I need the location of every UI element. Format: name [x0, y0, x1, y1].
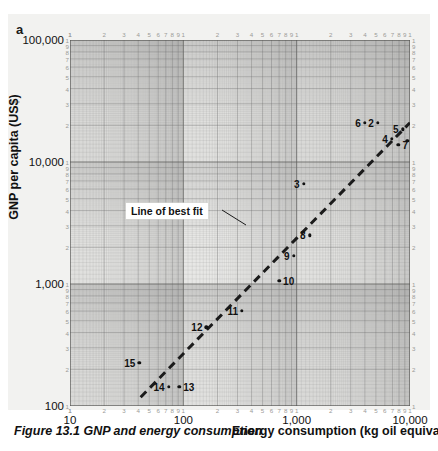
data-point-label-14: 14 [153, 382, 166, 393]
minor-label-bottom-80: 8 [171, 407, 174, 414]
minor-label-right-50000: 5 [412, 73, 421, 80]
minor-label-right-800: 8 [412, 292, 421, 299]
minor-label-left-10000: 1 [60, 159, 69, 166]
minor-label-top-300: 3 [236, 31, 239, 38]
minor-label-left-70000: 7 [60, 55, 69, 62]
minor-label-right-5000: 5 [412, 195, 421, 202]
minor-label-bottom-300: 3 [236, 407, 239, 414]
minor-label-bottom-8000: 8 [397, 407, 400, 414]
data-point-label-11: 11 [228, 306, 241, 317]
minor-label-bottom-200: 2 [216, 407, 219, 414]
minor-label-top-8000: 8 [397, 31, 400, 38]
minor-label-bottom-30: 3 [122, 407, 125, 414]
minor-label-top-500: 5 [261, 31, 264, 38]
minor-label-right-1000: 1 [412, 281, 421, 288]
data-point-label-12: 12 [191, 322, 204, 333]
x-axis-title: Energy consumption (kg oil equivalent) [232, 424, 436, 438]
minor-label-left-80000: 8 [60, 48, 69, 55]
minor-label-right-6000: 6 [412, 186, 421, 193]
minor-label-left-20000: 2 [60, 122, 69, 129]
minor-label-bottom-20: 2 [102, 407, 105, 414]
minor-label-left-4000: 4 [60, 207, 69, 214]
minor-label-right-40000: 4 [412, 85, 421, 92]
y-axis-label-100: 100 [0, 400, 64, 412]
minor-label-top-6000: 6 [383, 31, 386, 38]
minor-label-left-100000: 1 [60, 37, 69, 44]
minor-label-left-100: 1 [60, 403, 69, 410]
minor-label-right-8000: 8 [412, 170, 421, 177]
minor-label-bottom-4000: 4 [363, 407, 366, 414]
minor-label-right-100000: 1 [412, 37, 421, 44]
minor-label-bottom-600: 6 [270, 407, 273, 414]
data-point-label-5: 5 [393, 124, 401, 135]
minor-label-bottom-500: 5 [261, 407, 264, 414]
line-of-best-fit-annotation: Line of best fit [126, 203, 208, 219]
minor-label-top-1000: 1 [295, 31, 298, 38]
line-of-best-fit [70, 40, 410, 406]
minor-label-bottom-2000: 2 [329, 407, 332, 414]
minor-label-top-90: 9 [176, 31, 179, 38]
minor-label-top-80: 8 [171, 31, 174, 38]
minor-label-top-900: 9 [290, 31, 293, 38]
minor-label-bottom-3000: 3 [349, 407, 352, 414]
minor-label-left-8000: 8 [60, 170, 69, 177]
data-point-label-4: 4 [382, 133, 390, 144]
minor-label-bottom-40: 4 [136, 407, 139, 414]
minor-label-top-30: 3 [122, 31, 125, 38]
data-point-label-6: 6 [355, 117, 363, 128]
minor-label-right-3000: 3 [412, 222, 421, 229]
minor-label-right-30000: 3 [412, 100, 421, 107]
minor-label-right-500: 5 [412, 317, 421, 324]
minor-label-top-400: 4 [250, 31, 253, 38]
y-axis-label-100000: 100,000 [0, 34, 64, 46]
minor-label-right-2000: 2 [412, 244, 421, 251]
data-point-label-3: 3 [294, 179, 302, 190]
minor-label-right-80000: 8 [412, 48, 421, 55]
minor-label-bottom-7000: 7 [391, 407, 394, 414]
data-point-label-10: 10 [281, 275, 294, 286]
minor-label-left-5000: 5 [60, 195, 69, 202]
minor-label-right-700: 7 [412, 299, 421, 306]
minor-label-left-800: 8 [60, 292, 69, 299]
minor-label-right-4000: 4 [412, 207, 421, 214]
minor-label-top-700: 7 [277, 31, 280, 38]
minor-label-right-200: 2 [412, 366, 421, 373]
minor-label-right-10000: 1 [412, 159, 421, 166]
minor-label-top-600: 6 [270, 31, 273, 38]
minor-label-left-1000: 1 [60, 281, 69, 288]
minor-label-left-60000: 6 [60, 64, 69, 71]
minor-label-top-50: 5 [147, 31, 150, 38]
minor-label-bottom-700: 7 [277, 407, 280, 414]
data-point-label-15: 15 [124, 358, 137, 369]
minor-label-right-70000: 7 [412, 55, 421, 62]
data-point-label-2: 2 [368, 117, 376, 128]
minor-label-bottom-50: 5 [147, 407, 150, 414]
minor-label-left-600: 6 [60, 308, 69, 315]
minor-label-top-7000: 7 [391, 31, 394, 38]
minor-label-bottom-9000: 9 [403, 407, 406, 414]
figure-caption: Figure 13.1 GNP and energy consumption [14, 424, 262, 438]
minor-label-left-40000: 4 [60, 85, 69, 92]
minor-label-left-200: 2 [60, 366, 69, 373]
y-axis-label-1000: 1,000 [0, 278, 64, 290]
minor-label-bottom-1000: 1 [295, 407, 298, 414]
minor-label-bottom-60: 6 [156, 407, 159, 414]
minor-label-left-2000: 2 [60, 244, 69, 251]
minor-label-left-50000: 5 [60, 73, 69, 80]
minor-label-right-100: 1 [412, 403, 421, 410]
minor-label-right-400: 4 [412, 329, 421, 336]
minor-label-right-300: 3 [412, 344, 421, 351]
minor-label-bottom-100: 1 [182, 407, 185, 414]
minor-label-right-600: 6 [412, 308, 421, 315]
minor-label-top-800: 8 [284, 31, 287, 38]
minor-label-left-6000: 6 [60, 186, 69, 193]
minor-label-top-4000: 4 [363, 31, 366, 38]
y-axis-title: GNP per capita (US$) [7, 57, 21, 257]
minor-label-right-60000: 6 [412, 64, 421, 71]
minor-label-left-30000: 3 [60, 100, 69, 107]
minor-label-top-5000: 5 [374, 31, 377, 38]
minor-label-top-60: 6 [156, 31, 159, 38]
plot-area: 123456789101112131415 [70, 40, 410, 406]
data-point-label-9: 9 [284, 250, 292, 261]
minor-label-top-100: 1 [182, 31, 185, 38]
